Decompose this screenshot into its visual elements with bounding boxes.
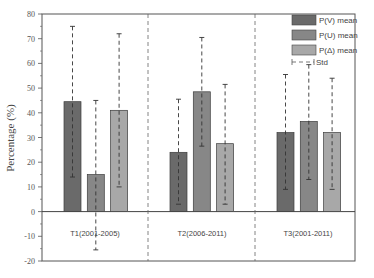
bar [277,133,294,212]
y-tick-label: -10 [24,232,35,241]
y-tick-label: 30 [27,134,35,143]
y-tick-label: -20 [24,257,35,266]
y-tick-label: 60 [27,59,35,68]
legend-label-std: Std [316,58,328,67]
legend-label-u: P(U) mean [319,31,358,40]
bar [170,152,187,211]
category-label-t2: T2(2006-2011) [177,229,227,238]
y-tick-label: 70 [27,35,35,44]
legend-swatch-u [292,30,316,40]
legend-swatch-d [292,45,316,55]
y-tick-label: 10 [27,183,35,192]
bar-chart: -20-1001020304050607080 Percentage (%) T… [0,0,374,278]
y-axis-title: Percentage (%) [4,104,17,172]
legend-swatch-v [292,15,316,25]
y-tick-label: 20 [27,158,35,167]
y-tick-label: 0 [31,208,35,217]
y-tick-label: 50 [27,84,35,93]
y-axis: -20-1001020304050607080 [24,10,42,266]
legend-label-d: P(Δ) mean [319,46,357,55]
category-label-t1: T1(2001-2005) [70,229,120,238]
category-label-t3: T3(2001-2011) [283,229,333,238]
y-tick-label: 80 [27,10,35,19]
y-tick-label: 40 [27,109,35,118]
legend-label-v: P(V) mean [319,16,357,25]
